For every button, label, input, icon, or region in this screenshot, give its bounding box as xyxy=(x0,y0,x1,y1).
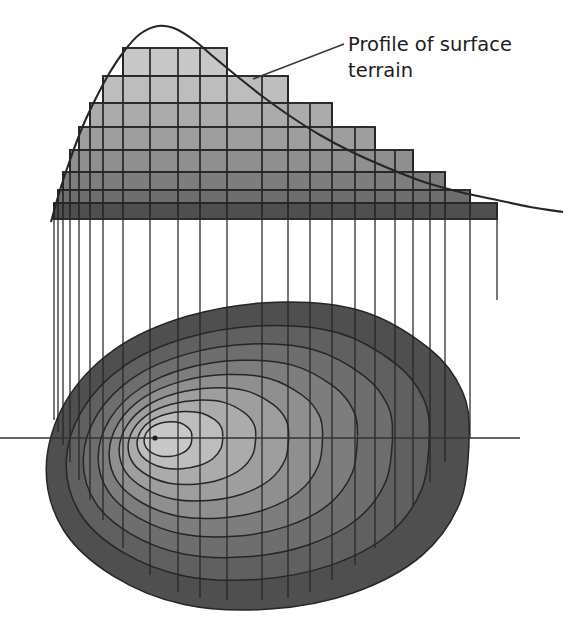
profile-step-band xyxy=(123,48,227,76)
profile-step-band xyxy=(70,150,413,172)
profile-step-band xyxy=(63,172,445,190)
summit-point-marker xyxy=(152,435,157,440)
annotation-label-line1: Profile of surface xyxy=(348,33,512,56)
profile-step-band xyxy=(103,76,288,103)
profile-step-band xyxy=(90,103,332,127)
profile-step-band xyxy=(58,190,470,203)
terrain-profile-contour-figure: Profile of surface terrain xyxy=(0,0,572,617)
annotation-label-line2: terrain xyxy=(348,59,413,82)
